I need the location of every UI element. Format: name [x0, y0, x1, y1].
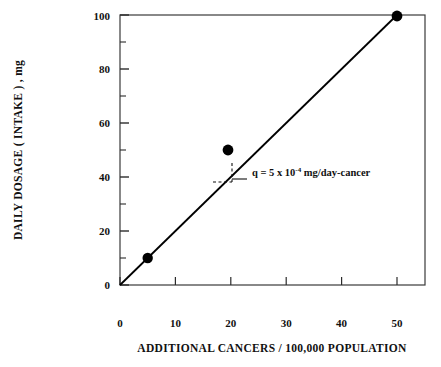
y-tick-label: 0: [105, 279, 111, 291]
y-tick-label: 40: [99, 171, 111, 183]
dose-response-chart: q = 5 x 10-4 mg/day-cancer 0 10 20 30 40…: [0, 0, 441, 367]
annotation-prefix: q = 5 x 10: [252, 167, 295, 178]
y-tick-label: 100: [94, 10, 111, 22]
y-tick-label: 60: [99, 117, 111, 129]
x-tick-label: 40: [336, 317, 348, 329]
x-tick-label: 20: [225, 317, 237, 329]
annotation-suffix: mg/day-cancer: [301, 167, 370, 178]
slope-annotation-text: q = 5 x 10-4 mg/day-cancer: [252, 166, 371, 178]
chart-container: q = 5 x 10-4 mg/day-cancer 0 10 20 30 40…: [0, 0, 441, 367]
y-axis-title: DAILY DOSAGE ( INTAKE ) , mg: [12, 60, 25, 240]
data-point-marker: [223, 145, 234, 156]
y-tick-label: 80: [99, 63, 111, 75]
data-point-marker: [392, 11, 403, 22]
data-point-marker: [143, 253, 153, 263]
x-tick-label: 50: [392, 317, 404, 329]
x-tick-label: 0: [117, 317, 123, 329]
x-tick-label: 30: [281, 317, 293, 329]
x-tick-label: 10: [170, 317, 182, 329]
chart-background: [0, 0, 441, 367]
y-tick-label: 20: [99, 225, 111, 237]
x-axis-title: ADDITIONAL CANCERS / 100,000 POPULATION: [137, 342, 407, 354]
